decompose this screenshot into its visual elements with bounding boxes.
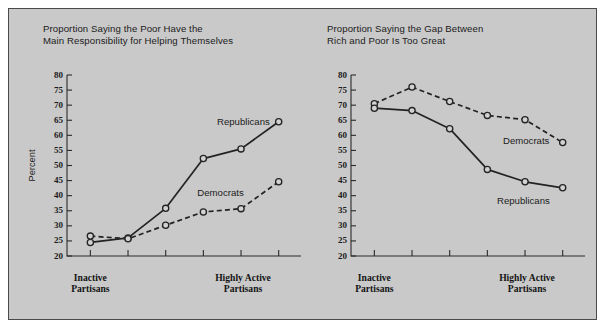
y-axis-tick-label: 35 [338, 205, 348, 215]
data-point-marker [87, 233, 93, 239]
y-axis-tick-label: 55 [338, 145, 348, 155]
data-point-marker [409, 84, 415, 90]
y-axis-tick-label: 70 [54, 100, 64, 110]
chart-right-category-highly-active: Highly Active Partisans [477, 272, 577, 294]
data-point-marker [447, 126, 453, 132]
data-point-marker [125, 236, 131, 242]
data-point-marker [200, 209, 206, 215]
y-axis-tick-label: 75 [54, 85, 64, 95]
data-point-marker [484, 112, 490, 118]
y-axis-tick-label: 50 [54, 160, 64, 170]
figure-panel: Proportion Saying the Poor Have the Main… [8, 8, 597, 320]
data-point-marker [447, 98, 453, 104]
y-axis-tick-label: 65 [338, 115, 348, 125]
data-point-marker [276, 119, 282, 125]
chart-left: Proportion Saying the Poor Have the Main… [15, 9, 309, 319]
data-point-marker [560, 139, 566, 145]
y-axis-tick-label: 45 [338, 175, 348, 185]
y-axis-tick-label: 65 [54, 115, 64, 125]
data-point-marker [276, 179, 282, 185]
y-axis-tick-label: 25 [54, 235, 64, 245]
data-point-marker [87, 239, 93, 245]
y-axis-title: Percent [27, 149, 37, 181]
chart-left-category-highly-active: Highly Active Partisans [193, 272, 293, 294]
chart-right: Proportion Saying the Gap Between Rich a… [299, 9, 593, 319]
y-axis-tick-label: 75 [338, 85, 348, 95]
data-point-marker [560, 185, 566, 191]
y-axis-tick-label: 40 [54, 190, 64, 200]
series-label-republicans: Republicans [217, 116, 270, 127]
y-axis-tick-label: 30 [338, 220, 348, 230]
y-axis-tick-label: 35 [54, 205, 64, 215]
y-axis-tick-label: 60 [338, 130, 348, 140]
series-label-democrats: Democrats [197, 187, 244, 198]
y-axis-tick-label: 70 [338, 100, 348, 110]
data-point-marker [484, 166, 490, 172]
data-point-marker [522, 117, 528, 123]
data-point-marker [238, 206, 244, 212]
chart-right-category-inactive: Inactive Partisans [324, 272, 424, 294]
series-label-democrats: Democrats [503, 135, 550, 146]
y-axis-tick-label: 80 [54, 70, 64, 80]
y-axis-tick-label: 80 [338, 70, 348, 80]
y-axis-tick-label: 25 [338, 235, 348, 245]
y-axis-tick-label: 60 [54, 130, 64, 140]
data-point-marker [200, 155, 206, 161]
data-point-marker [409, 107, 415, 113]
y-axis-tick-label: 20 [54, 251, 64, 261]
data-point-marker [371, 105, 377, 111]
data-point-marker [238, 146, 244, 152]
y-axis-tick-label: 50 [338, 160, 348, 170]
series-label-republicans: Republicans [497, 195, 550, 206]
y-axis-tick-label: 20 [338, 251, 348, 261]
y-axis-tick-label: 40 [338, 190, 348, 200]
chart-left-category-inactive: Inactive Partisans [40, 272, 140, 294]
y-axis-tick-label: 45 [54, 175, 64, 185]
data-point-marker [163, 222, 169, 228]
y-axis-tick-label: 55 [54, 145, 64, 155]
data-point-marker [163, 205, 169, 211]
data-point-marker [522, 179, 528, 185]
y-axis-tick-label: 30 [54, 220, 64, 230]
